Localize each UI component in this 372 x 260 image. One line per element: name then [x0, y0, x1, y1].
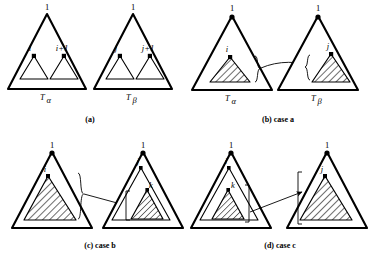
tree-label-letter: T — [40, 92, 46, 102]
node-dot-j — [323, 174, 327, 178]
panel-caption-c: (c) case b — [84, 241, 116, 250]
root-label: 1 — [50, 140, 54, 150]
panel-a: i i+1 1 T α j j+1 1 T β (a) — [8, 2, 172, 124]
tree-label-subscript: α — [47, 95, 52, 105]
root-label: 1 — [141, 140, 145, 150]
panel-b-right-tree: j 1 T β — [278, 3, 358, 106]
tree-label-letter: T — [126, 92, 132, 102]
tree-label-t-beta: T β — [126, 92, 138, 105]
root-label: 1 — [131, 2, 135, 12]
node-label-k: k — [231, 180, 235, 190]
panel-c-right-tree: j k 1 — [103, 140, 183, 228]
panel-d-right-tree: j 1 — [287, 140, 367, 228]
panel-a-left-tree: i i+1 1 T α — [8, 2, 86, 105]
root-label: 1 — [230, 3, 234, 13]
node-dot-i — [32, 54, 36, 58]
node-dot-i — [227, 166, 231, 170]
panel-c-left-tree: i 1 — [12, 140, 92, 228]
figure-root: i i+1 1 T α j j+1 1 T β (a) — [0, 0, 372, 260]
tree-label-subscript: β — [132, 95, 138, 105]
panel-c: i 1 j k 1 (c) case b — [12, 140, 183, 250]
node-label-i-plus-1: i+1 — [56, 43, 68, 53]
panel-b: i 1 T α j 1 T β (b) ca — [192, 3, 358, 124]
node-dot-i-plus-1 — [62, 54, 66, 58]
tree-label-letter: T — [311, 93, 317, 103]
root-dot — [140, 150, 145, 155]
panel-a-right-tree: j j+1 1 T β — [94, 2, 172, 105]
panel-d: i k 1 j 1 (d) case c — [191, 140, 367, 250]
panel-caption-a: (a) — [85, 115, 95, 124]
tree-label-t-alpha: T α — [225, 93, 237, 106]
node-dot-i — [228, 55, 232, 59]
panel-b-left-tree: i 1 T α — [192, 3, 272, 106]
node-dot-j — [329, 52, 333, 56]
root-dot — [49, 150, 54, 155]
root-dot — [229, 14, 234, 19]
root-dot — [324, 150, 329, 155]
node-dot-k — [226, 188, 230, 192]
root-dot — [315, 14, 320, 19]
node-dot-j — [118, 54, 122, 58]
root-dot — [228, 150, 233, 155]
root-label: 1 — [45, 2, 49, 12]
node-dot-i — [46, 174, 50, 178]
tree-label-subscript: β — [317, 96, 323, 106]
node-dot-j-plus-1 — [148, 54, 152, 58]
root-label: 1 — [316, 3, 320, 13]
panel-d-left-tree: i k 1 — [191, 140, 271, 228]
root-label: 1 — [229, 140, 233, 150]
tree-label-t-beta: T β — [311, 93, 323, 106]
panel-caption-d: (d) case c — [264, 241, 296, 250]
node-label-j-plus-1: j+1 — [141, 43, 154, 53]
tree-label-subscript: α — [232, 96, 237, 106]
panel-caption-b: (b) case a — [262, 115, 294, 124]
node-dot-j — [139, 166, 143, 170]
root-label: 1 — [325, 140, 329, 150]
panel-caption-b-group: (b) case a — [262, 115, 294, 124]
tree-label-letter: T — [225, 93, 231, 103]
tree-label-t-alpha: T α — [40, 92, 52, 105]
node-label-k: k — [149, 180, 153, 190]
